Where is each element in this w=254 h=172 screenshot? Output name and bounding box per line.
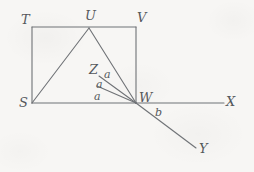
angle-label-a3: a <box>94 91 101 102</box>
segment-ray-WY <box>136 103 196 148</box>
vertex-label-v: V <box>137 11 146 24</box>
vertex-label-u: U <box>85 9 96 22</box>
vertex-label-s: S <box>19 96 28 109</box>
vertex-label-y: Y <box>199 142 208 155</box>
vertex-label-x: X <box>226 95 235 108</box>
vertex-label-w: W <box>139 91 152 104</box>
angle-label-a2: a <box>96 79 103 90</box>
vertex-label-z: Z <box>89 63 98 76</box>
segment-side-SU <box>32 28 89 103</box>
angle-label-b: b <box>155 107 162 118</box>
vertex-label-t: T <box>21 13 30 26</box>
geometry-figure <box>0 0 254 172</box>
diagram-canvas: TUVSWZXYaaab <box>0 0 254 172</box>
angle-label-a1: a <box>104 69 111 80</box>
segments-group <box>32 27 224 148</box>
